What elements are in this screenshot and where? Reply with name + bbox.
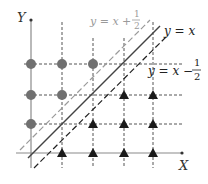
y-axis-label: Y [17,10,27,25]
label-lower: y = x − 1 2 [147,57,201,82]
line-y-eq-x-minus-half [34,36,167,168]
svg-text:2: 2 [194,71,200,82]
diagram: Y X y = x + 1 2 y = x y = x − 1 2 [0,0,208,184]
svg-text:y = x +: y = x + [89,15,131,28]
triangle-markers [57,90,158,157]
label-upper: y = x + 1 2 [89,9,140,31]
line-y-eq-x-plus-half [20,20,150,150]
svg-text:1: 1 [194,57,200,68]
svg-text:1: 1 [134,9,140,19]
svg-text:y = x −: y = x − [147,64,193,78]
line-y-eq-x [28,26,160,158]
label-y-eq-x: y = x [163,24,195,38]
x-axis-label: X [178,158,189,173]
lattice-diagram: Y X y = x + 1 2 y = x y = x − 1 2 [0,0,208,184]
svg-text:2: 2 [134,21,140,31]
